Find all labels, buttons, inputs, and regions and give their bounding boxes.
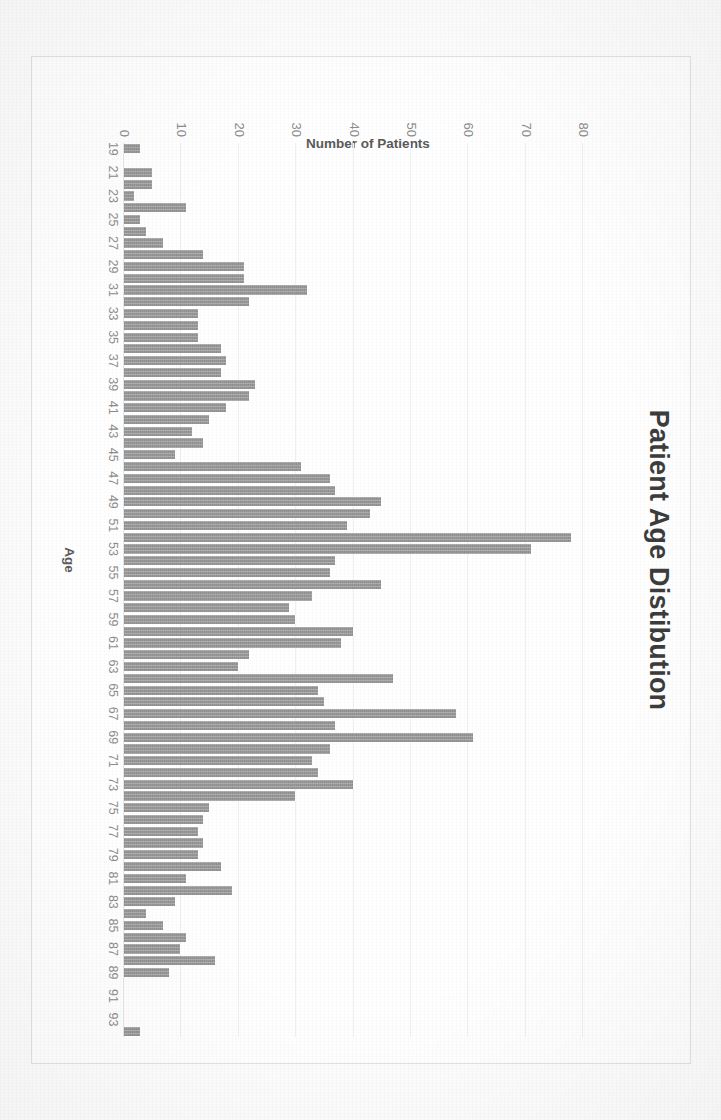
bar-slot — [124, 802, 612, 814]
bar-slot — [124, 884, 612, 896]
x-axis-tick-label: 41 — [106, 401, 120, 415]
bar-slot — [124, 402, 612, 414]
x-axis-tick-label: 77 — [106, 824, 120, 838]
bar-slot — [124, 590, 612, 602]
x-axis-tick-label: 45 — [106, 448, 120, 462]
bar-slot — [124, 520, 612, 532]
bar — [124, 486, 336, 495]
x-axis-tick-label: 73 — [106, 777, 120, 791]
x-axis-tick-label: 27 — [106, 236, 120, 250]
bar-slot — [124, 931, 612, 943]
x-axis-slot: 91 — [94, 990, 120, 1002]
x-axis-tick-label: 51 — [106, 518, 120, 532]
x-axis-tick-label: 69 — [106, 730, 120, 744]
bar-slot — [124, 308, 612, 320]
bar-slot — [124, 649, 612, 661]
x-axis-tick-label: 29 — [106, 260, 120, 274]
bar-slot — [124, 578, 612, 590]
value-axis: Number of Patients 01020304050607080 — [124, 97, 612, 141]
bar — [124, 215, 141, 224]
bar — [124, 509, 371, 518]
bar-slot — [124, 167, 612, 179]
bar-slot — [124, 637, 612, 649]
bar — [124, 662, 239, 671]
category-axis: 1921232527293133353739414345474951535557… — [94, 143, 120, 1037]
bar — [124, 674, 394, 683]
x-axis-slot: 23 — [94, 190, 120, 202]
bar-slot — [124, 225, 612, 237]
x-axis-tick-label: 55 — [106, 565, 120, 579]
bar-slot — [124, 767, 612, 779]
bar — [124, 709, 457, 718]
bar — [124, 368, 222, 377]
bar — [124, 544, 532, 553]
x-axis-tick-label: 91 — [106, 989, 120, 1003]
x-axis-slot: 45 — [94, 449, 120, 461]
bar — [124, 850, 199, 859]
bar-slot — [124, 1014, 612, 1026]
bar — [124, 180, 153, 189]
x-axis-slot: 83 — [94, 896, 120, 908]
x-axis-slot: 33 — [94, 308, 120, 320]
bar-slot — [124, 272, 612, 284]
x-axis-tick-label: 25 — [106, 213, 120, 227]
x-axis-slot: 41 — [94, 402, 120, 414]
bar-slot — [124, 837, 612, 849]
bar-slot — [124, 896, 612, 908]
bar-slot — [124, 567, 612, 579]
bar-slot — [124, 178, 612, 190]
bar-series — [124, 143, 612, 1037]
bar — [124, 897, 176, 906]
bar — [124, 168, 153, 177]
bar-slot — [124, 955, 612, 967]
bar — [124, 744, 331, 753]
bar — [124, 415, 210, 424]
bar — [124, 274, 245, 283]
bar — [124, 250, 204, 259]
x-axis-tick-label: 79 — [106, 848, 120, 862]
bar — [124, 650, 250, 659]
x-axis-tick-label: 61 — [106, 636, 120, 650]
bar-slot — [124, 720, 612, 732]
bar-slot — [124, 872, 612, 884]
x-axis-slot: 51 — [94, 520, 120, 532]
bar — [124, 580, 382, 589]
x-axis-slot: 63 — [94, 661, 120, 673]
bar-slot — [124, 849, 612, 861]
bar-slot — [124, 943, 612, 955]
x-axis-slot: 71 — [94, 755, 120, 767]
bar — [124, 768, 319, 777]
bar — [124, 556, 336, 565]
y-axis-tick-label: 30 — [288, 123, 303, 137]
bar-slot — [124, 696, 612, 708]
bar — [124, 827, 199, 836]
bar — [124, 391, 250, 400]
x-axis-tick-label: 85 — [106, 918, 120, 932]
bar-slot — [124, 284, 612, 296]
x-axis-slot: 55 — [94, 567, 120, 579]
x-axis-slot: 77 — [94, 825, 120, 837]
x-axis-tick-label: 31 — [106, 283, 120, 297]
x-axis-slot: 65 — [94, 684, 120, 696]
x-axis-slot: 35 — [94, 331, 120, 343]
bar-slot — [124, 978, 612, 990]
bar — [124, 1027, 141, 1036]
bar — [124, 803, 210, 812]
bar — [124, 1003, 125, 1012]
bar-slot — [124, 202, 612, 214]
bar-slot — [124, 920, 612, 932]
x-axis-tick-label: 81 — [106, 871, 120, 885]
x-axis-slot: 25 — [94, 214, 120, 226]
bar-slot — [124, 625, 612, 637]
bar — [124, 780, 354, 789]
bar — [124, 980, 125, 989]
bar — [124, 309, 199, 318]
x-axis-tick-label: 89 — [106, 966, 120, 980]
y-axis-tick-label: 0 — [116, 130, 131, 137]
bar — [124, 285, 308, 294]
bar — [124, 427, 193, 436]
bar — [124, 956, 216, 965]
x-axis-slot: 47 — [94, 472, 120, 484]
bar-slot — [124, 319, 612, 331]
bar-slot — [124, 602, 612, 614]
